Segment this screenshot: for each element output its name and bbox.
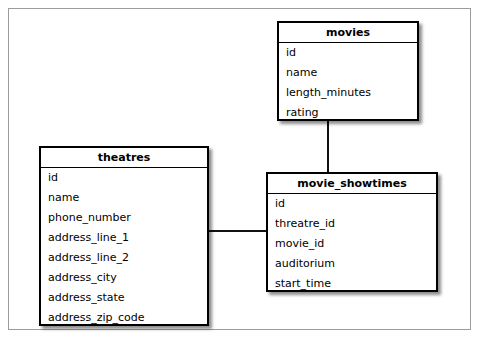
entity-theatres[interactable]: theatres id name phone_number address_li… (39, 146, 209, 326)
entity-field: start_time (268, 274, 436, 294)
diagram-canvas: movies id name length_minutes rating the… (0, 0, 480, 341)
entity-field: id (41, 168, 207, 188)
entity-field: movie_id (268, 234, 436, 254)
entity-theatres-title: theatres (41, 148, 207, 168)
entity-field: id (268, 194, 436, 214)
entity-field: id (279, 43, 417, 63)
entity-field: address_state (41, 288, 207, 308)
relationship-movies-to-movie-showtimes (327, 120, 329, 173)
entity-field: auditorium (268, 254, 436, 274)
diagram-frame: movies id name length_minutes rating the… (8, 8, 471, 330)
entity-movie-showtimes-field-list: id threatre_id movie_id auditorium start… (268, 194, 436, 294)
entity-field: name (279, 63, 417, 83)
entity-movie-showtimes-title: movie_showtimes (268, 174, 436, 194)
entity-field: length_minutes (279, 83, 417, 103)
entity-field: address_line_2 (41, 248, 207, 268)
entity-field: phone_number (41, 208, 207, 228)
entity-field: threatre_id (268, 214, 436, 234)
entity-movies-title: movies (279, 23, 417, 43)
entity-field: address_line_1 (41, 228, 207, 248)
entity-movies-field-list: id name length_minutes rating (279, 43, 417, 123)
entity-theatres-field-list: id name phone_number address_line_1 addr… (41, 168, 207, 328)
entity-movies[interactable]: movies id name length_minutes rating (277, 21, 419, 121)
entity-movie-showtimes[interactable]: movie_showtimes id threatre_id movie_id … (266, 172, 438, 292)
entity-field: name (41, 188, 207, 208)
entity-field: address_zip_code (41, 308, 207, 328)
entity-field: address_city (41, 268, 207, 288)
entity-field: rating (279, 103, 417, 123)
relationship-theatres-to-movie-showtimes (208, 230, 268, 232)
